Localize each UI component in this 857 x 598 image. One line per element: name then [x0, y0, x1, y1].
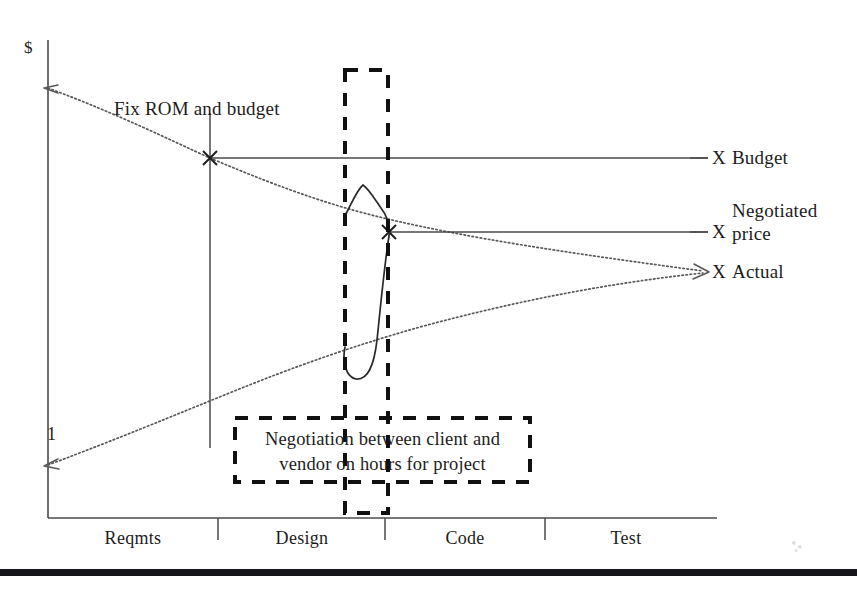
legend-marker-negotiated-price: X	[712, 221, 726, 243]
legend-label-actual: Actual	[732, 261, 784, 283]
callout-fix-rom-and-budget: Fix ROM and budget	[114, 98, 280, 120]
diagram-canvas	[0, 0, 857, 598]
legend-marker-actual: X	[712, 261, 726, 283]
scan-smudge-artifact	[789, 537, 805, 554]
y-axis-unit-label: $	[24, 38, 33, 58]
legend-marker-budget: X	[712, 147, 726, 169]
page-footer-rule	[0, 569, 857, 576]
legend-label-negotiated-price-line-1: Negotiated	[732, 200, 817, 222]
y-axis-baseline-label: 1	[47, 424, 56, 445]
phase-label-design: Design	[232, 528, 372, 549]
figure-root: $ 1 Fix ROM and budget Reqmts Design Cod…	[0, 0, 857, 598]
legend-label-negotiated-price-line-2: price	[732, 223, 771, 245]
phase-label-test: Test	[556, 528, 696, 549]
upper-estimate-arrowhead	[44, 85, 58, 93]
negotiation-loop-curve	[344, 185, 389, 379]
legend-label-budget: Budget	[732, 147, 788, 169]
phase-label-code: Code	[395, 528, 535, 549]
note-box-line-2: vendor on hours for project	[243, 452, 522, 477]
phase-label-reqmts: Reqmts	[63, 528, 203, 549]
note-box-line-1: Negotiation between client and	[243, 427, 522, 452]
